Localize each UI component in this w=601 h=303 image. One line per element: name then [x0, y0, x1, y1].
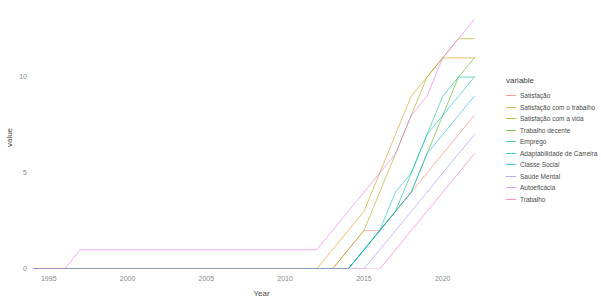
- legend-color-swatch-icon: [505, 194, 518, 205]
- series-line: [33, 115, 474, 269]
- legend-color-swatch-icon: [505, 102, 518, 113]
- y-tick-label-10: 10: [9, 73, 27, 80]
- x-tick-label-2005: 2005: [186, 275, 226, 282]
- legend-item[interactable]: Classe Social: [505, 159, 601, 171]
- plot-panel: [33, 8, 490, 269]
- legend-item-label: Emprego: [518, 136, 546, 147]
- series-line: [33, 58, 474, 269]
- legend-item-label: Classe Social: [518, 159, 559, 170]
- legend: variable SatisfaçãoSatisfação com o trab…: [505, 76, 601, 205]
- legend-item-label: Satisfação com a vida: [518, 113, 584, 124]
- series-line: [33, 154, 474, 269]
- x-axis-title: Year: [0, 289, 523, 298]
- legend-item-label: Satisfação: [518, 90, 550, 101]
- legend-title: variable: [505, 76, 601, 85]
- legend-item-label: Trabalho decente: [518, 125, 570, 136]
- legend-item[interactable]: Emprego: [505, 136, 601, 148]
- y-axis-title: value: [5, 118, 14, 158]
- x-tick-label-2020: 2020: [423, 275, 463, 282]
- legend-item-label: Adaptabilidade de Carreira: [518, 148, 597, 159]
- legend-color-swatch-icon: [505, 171, 518, 182]
- x-tick-label-2015: 2015: [344, 275, 384, 282]
- legend-item-label: Autoeficácia: [518, 182, 555, 193]
- plot-svg: [33, 8, 490, 269]
- legend-item[interactable]: Autoeficácia: [505, 182, 601, 194]
- legend-color-swatch-icon: [505, 90, 518, 101]
- legend-color-swatch-icon: [505, 125, 518, 136]
- x-tick-label-2000: 2000: [108, 275, 148, 282]
- series-line: [33, 58, 474, 269]
- legend-item-label: Saúde Mental: [518, 171, 560, 182]
- legend-item[interactable]: Satisfação: [505, 90, 601, 102]
- legend-item-label: Satisfação com o trabalho: [518, 102, 595, 113]
- y-tick-label-5: 5: [9, 169, 27, 176]
- x-tick-label-2010: 2010: [265, 275, 305, 282]
- legend-color-swatch-icon: [505, 159, 518, 170]
- legend-item[interactable]: Trabalho: [505, 194, 601, 206]
- legend-item[interactable]: Satisfação com a vida: [505, 113, 601, 125]
- legend-item[interactable]: Saúde Mental: [505, 171, 601, 183]
- legend-item[interactable]: Trabalho decente: [505, 125, 601, 137]
- series-line: [33, 20, 474, 269]
- series-line: [33, 77, 474, 269]
- legend-item[interactable]: Adaptabilidade de Carreira: [505, 148, 601, 160]
- legend-color-swatch-icon: [505, 113, 518, 124]
- legend-item[interactable]: Satisfação com o trabalho: [505, 102, 601, 114]
- legend-color-swatch-icon: [505, 148, 518, 159]
- series-layer: [33, 20, 474, 269]
- y-tick-label-0: 0: [9, 265, 27, 272]
- legend-color-swatch-icon: [505, 136, 518, 147]
- x-tick-label-1995: 1995: [29, 275, 69, 282]
- series-line: [33, 77, 474, 269]
- chart-root: 0 5 10 1995 2000 2005 2010 2015 2020 Yea…: [0, 0, 601, 303]
- legend-color-swatch-icon: [505, 182, 518, 193]
- series-line: [33, 135, 474, 269]
- legend-item-label: Trabalho: [518, 194, 545, 205]
- legend-items: SatisfaçãoSatisfação com o trabalhoSatis…: [505, 90, 601, 205]
